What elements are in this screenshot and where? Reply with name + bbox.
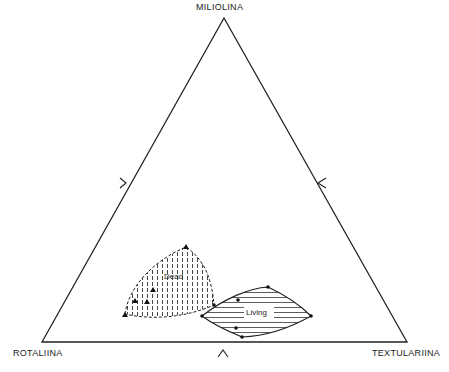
living-label: Living — [246, 308, 267, 317]
vertex-label-bottom-left: ROTALIINA — [13, 348, 63, 358]
dead-label: Dead — [164, 272, 183, 281]
triangle-frame — [42, 18, 407, 342]
living-field: Living — [200, 285, 313, 339]
vertex-label-top: MILIOLINA — [196, 2, 243, 12]
tick-left — [120, 178, 126, 188]
ternary-diagram: Dead Living — [0, 0, 449, 372]
vertex-label-bottom-right: TEXTULARIINA — [372, 348, 440, 358]
tick-bottom — [218, 350, 228, 357]
dead-field: Dead — [122, 244, 216, 317]
